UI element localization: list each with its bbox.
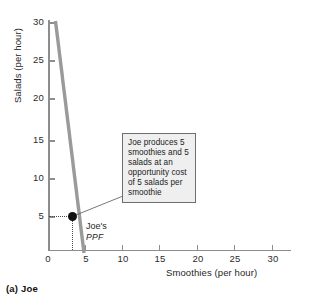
x-tick-label-25: 25: [223, 253, 247, 264]
x-axis-title: Smoothies (per hour): [166, 267, 257, 278]
y-tick-10: [50, 178, 55, 179]
x-tick-label-10: 10: [111, 253, 135, 264]
y-tick-25: [50, 60, 55, 61]
x-tick-20: [197, 245, 198, 250]
figure-caption: (a) Joe: [6, 283, 38, 294]
x-tick-label-30: 30: [261, 253, 285, 264]
y-tick-label-30: 30: [22, 16, 44, 27]
opportunity-cost-callout: Joe produces 5 smoothies and 5 salads at…: [122, 133, 196, 203]
y-tick-30: [50, 22, 55, 23]
x-tick-30: [272, 245, 273, 250]
x-tick-15: [159, 245, 160, 250]
production-point-marker: [68, 212, 77, 221]
x-tick-25: [234, 245, 235, 250]
ppf-label-line1: Joe's: [86, 221, 107, 232]
ppf-chart-figure: 30 25 20 15 10 5 0 5 10 15 20 25 30 Sala…: [0, 0, 309, 303]
y-tick-label-20: 20: [22, 92, 44, 103]
x-tick-label-15: 15: [148, 253, 172, 264]
x-tick-label-20: 20: [186, 253, 210, 264]
x-tick-10: [122, 245, 123, 250]
y-tick-label-15: 15: [22, 134, 44, 145]
x-tick-label-5: 5: [74, 253, 98, 264]
y-axis-title: Salads (per hour): [12, 13, 23, 119]
y-tick-20: [50, 98, 55, 99]
x-tick-label-0: 0: [36, 253, 60, 264]
y-tick-15: [50, 140, 55, 141]
ppf-label-line2: PPF: [86, 232, 107, 243]
y-tick-label-5: 5: [22, 210, 44, 221]
ppf-line-label: Joe's PPF: [86, 221, 107, 243]
callout-leader-line: [76, 196, 123, 215]
smoothies-guide-line: [72, 217, 73, 250]
x-tick-5: [85, 245, 86, 250]
y-tick-label-25: 25: [22, 54, 44, 65]
y-tick-label-10: 10: [22, 172, 44, 183]
x-axis-line: [48, 250, 291, 252]
